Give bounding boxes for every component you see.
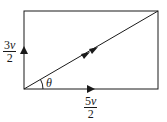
- vertical-arrow-icon: [20, 46, 28, 54]
- resultant-arrow-icon: [81, 52, 90, 59]
- resultant-arrow-icon-2: [89, 47, 98, 54]
- horizontal-arrow-icon: [87, 85, 95, 93]
- horizontal-variable: v: [91, 94, 96, 108]
- vertical-variable: v: [10, 38, 15, 52]
- horizontal-denominator: 2: [88, 108, 94, 120]
- vertical-component-label: 3v 2: [3, 40, 16, 64]
- angle-theta-label: θ: [46, 76, 52, 91]
- vertical-denominator: 2: [7, 52, 13, 64]
- angle-arc: [41, 80, 44, 90]
- horizontal-component-label: 5v 2: [84, 96, 97, 120]
